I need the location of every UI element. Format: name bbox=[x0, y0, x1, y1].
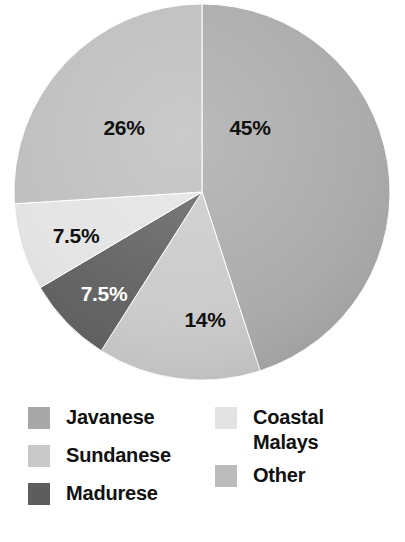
legend-swatch-other bbox=[215, 465, 237, 487]
slice-value-label-other: 26% bbox=[103, 116, 144, 140]
legend-swatch-madurese bbox=[28, 483, 50, 505]
legend-item-javanese[interactable]: Javanese bbox=[28, 405, 154, 430]
slice-value-label-sundanese: 14% bbox=[184, 308, 225, 332]
legend-item-sundanese[interactable]: Sundanese bbox=[28, 443, 171, 468]
chart-legend: JavaneseSundaneseMadurese Coastal Malays… bbox=[0, 385, 405, 542]
pie-chart-figure: 45%14%7.5%7.5%26% JavaneseSundaneseMadur… bbox=[0, 0, 405, 542]
legend-swatch-sundanese bbox=[28, 445, 50, 467]
legend-label-text: Madurese bbox=[66, 481, 158, 506]
legend-item-madurese[interactable]: Madurese bbox=[28, 481, 158, 506]
legend-label-text: Other bbox=[253, 463, 305, 488]
legend-item-other[interactable]: Other bbox=[215, 463, 305, 488]
legend-item-coastal-malays[interactable]: Coastal Malays bbox=[215, 405, 324, 455]
legend-label-text: Coastal Malays bbox=[253, 405, 324, 455]
slice-value-label-javanese: 45% bbox=[229, 116, 270, 140]
legend-label-text: Sundanese bbox=[66, 443, 171, 468]
slice-value-label-coastal-malays: 7.5% bbox=[53, 224, 100, 248]
slice-value-label-madurese: 7.5% bbox=[81, 282, 128, 306]
legend-swatch-coastal-malays bbox=[215, 407, 237, 429]
legend-swatch-javanese bbox=[28, 407, 50, 429]
pie-chart-area: 45%14%7.5%7.5%26% bbox=[0, 0, 405, 385]
legend-label-text: Javanese bbox=[66, 405, 154, 430]
